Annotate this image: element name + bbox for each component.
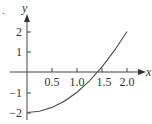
x-tick-label: 0.5 (45, 75, 60, 89)
x-tick-label: 1.5 (97, 75, 112, 89)
x-tick-label: 2.0 (120, 75, 135, 89)
y-tick-label: −1 (9, 86, 22, 100)
x-axis-label: x (145, 65, 152, 79)
chart: . x y 0.5 1.0 1.5 2.0 2 1 −1 −2 (0, 0, 152, 124)
y-tick-label: 2 (16, 25, 22, 39)
y-axis-label: y (21, 1, 28, 15)
figure-marker: . (2, 5, 5, 16)
x-ticks: 0.5 1.0 1.5 2.0 (45, 68, 135, 89)
y-tick-label: 1 (16, 45, 22, 59)
y-axis-arrow-icon (24, 14, 30, 22)
y-tick-label: −2 (9, 106, 22, 120)
x-axis-arrow-icon (138, 69, 146, 75)
